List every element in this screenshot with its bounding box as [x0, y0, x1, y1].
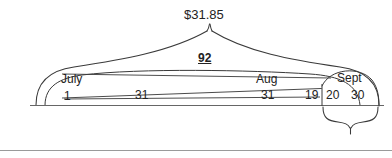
- total-days-label: 92: [198, 52, 211, 64]
- month-label-sept: Sept: [337, 72, 362, 84]
- connector-line-lower: [62, 88, 322, 98]
- day-label-aug-days-count: 19: [305, 89, 318, 101]
- sept-tail-brace: [323, 107, 378, 134]
- day-label-sept-end: 30: [351, 89, 364, 101]
- timeline-diagram: [0, 0, 392, 158]
- figure-canvas: $31.85 92 July Aug Sept 1 31 31 19 20 30: [0, 0, 392, 158]
- day-label-july-end: 31: [135, 89, 148, 101]
- day-label-sept-start: 20: [326, 89, 339, 101]
- connector-line-cross: [64, 97, 320, 99]
- day-label-july-start: 1: [64, 90, 71, 102]
- connector-line-upper: [62, 74, 331, 78]
- amount-label: $31.85: [184, 8, 224, 21]
- month-label-aug: Aug: [256, 73, 277, 85]
- day-label-aug-end: 31: [261, 89, 274, 101]
- footer-divider: [0, 150, 392, 151]
- month-label-july: July: [61, 73, 82, 85]
